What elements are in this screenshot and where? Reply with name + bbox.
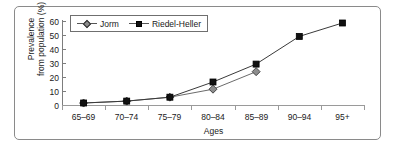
data-point-square[interactable] [210,79,216,85]
data-point-square[interactable] [167,94,173,100]
data-point-diamond[interactable] [209,85,217,93]
data-point-square[interactable] [253,61,259,67]
data-point-square[interactable] [124,98,130,104]
chart-series-layer [0,0,397,152]
data-point-square[interactable] [296,33,302,39]
data-point-square[interactable] [81,100,87,106]
data-point-diamond[interactable] [252,68,260,76]
data-point-square[interactable] [339,20,345,26]
figure-container: Prevalence from population (%) 60 50 40 … [0,0,397,152]
